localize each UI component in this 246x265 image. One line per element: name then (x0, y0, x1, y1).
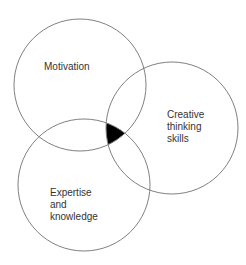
set-label-line: Motivation (44, 61, 90, 72)
set-label-line: skills (167, 133, 189, 144)
venn-diagram-canvas: Motivation Creativethinkingskills Expert… (0, 0, 246, 265)
set-label-line: knowledge (50, 211, 98, 222)
set-label-line: and (50, 199, 67, 210)
venn-diagram: Motivation Creativethinkingskills Expert… (0, 0, 246, 265)
set-label-line: thinking (167, 121, 201, 132)
set-label-line: Expertise (50, 187, 92, 198)
set-label-line: Creative (167, 109, 205, 120)
set-label-motivation: Motivation (44, 61, 90, 72)
